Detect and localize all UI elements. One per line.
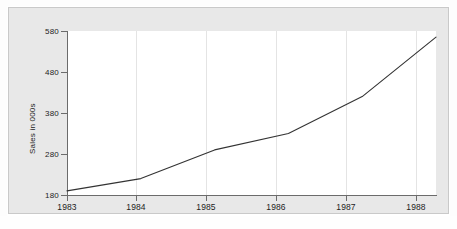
scan-margin-top [0, 0, 457, 6]
scan-margin-bottom [0, 216, 457, 229]
series-svg [9, 8, 450, 215]
scanned-chart-page: 580 480 380 280 180 1983 1984 1985 1986 … [0, 0, 457, 229]
chart-frame: 580 480 380 280 180 1983 1984 1985 1986 … [8, 7, 449, 214]
scan-margin-left [0, 0, 7, 229]
series-line-sales [67, 37, 436, 191]
scan-margin-right [450, 0, 457, 229]
